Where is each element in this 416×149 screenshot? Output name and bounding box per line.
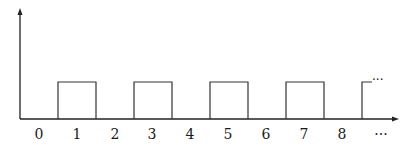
tick-label-3: 3	[148, 126, 157, 142]
pulse-5	[362, 82, 372, 119]
pulse-continuation-marker: ···	[372, 73, 383, 87]
tick-label-7: 7	[300, 126, 309, 142]
tick-label-8: 8	[338, 126, 347, 142]
pulse-train-diagram: ··· 0 1 2 3 4 5 6 7 8 ···	[0, 0, 416, 149]
tick-label-1: 1	[73, 126, 82, 142]
tick-label-5: 5	[224, 126, 233, 142]
pulse-3	[210, 82, 248, 119]
pulse-group	[58, 82, 372, 119]
x-tick-labels: 0 1 2 3 4 5 6 7 8 ···	[35, 126, 388, 142]
pulse-1	[58, 82, 96, 119]
pulse-4	[286, 82, 324, 119]
pulse-2	[134, 82, 172, 119]
y-axis-arrow-icon	[18, 8, 23, 15]
tick-label-0: 0	[35, 126, 44, 142]
tick-label-4: 4	[186, 126, 195, 142]
tick-label-6: 6	[262, 126, 271, 142]
x-axis-arrow-icon	[392, 117, 399, 122]
tick-label-ellipsis: ···	[374, 126, 387, 142]
tick-label-2: 2	[111, 126, 120, 142]
